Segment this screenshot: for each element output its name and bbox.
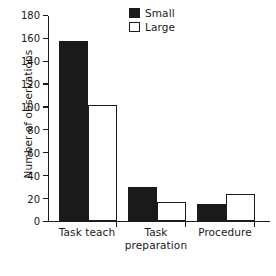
y-tick-20: 20 — [43, 198, 48, 199]
bar-task-teach-small — [59, 41, 88, 221]
y-tick-label-80: 80 — [27, 124, 40, 135]
y-tick-label-40: 40 — [27, 170, 40, 181]
x-axis-labels: Task teach Task preparation Procedure — [48, 226, 270, 272]
y-tick-label-180: 180 — [21, 10, 40, 21]
y-tick-100: 100 — [43, 106, 48, 107]
bars-container — [49, 16, 270, 221]
bar-procedure-large — [226, 194, 255, 220]
y-tick-label-0: 0 — [34, 216, 40, 227]
y-tick-label-140: 140 — [21, 56, 40, 67]
x-category-procedure-line1: Procedure — [180, 226, 270, 239]
y-tick-label-120: 120 — [21, 79, 40, 90]
plot-area: 0 20 40 60 80 100 120 140 160 180 — [48, 16, 270, 222]
y-tick-180: 180 — [43, 15, 48, 16]
bar-procedure-small — [197, 204, 226, 220]
bar-chart-figure: Small Large Number of observations 0 20 … — [0, 0, 276, 276]
y-tick-160: 160 — [43, 38, 48, 39]
bar-task-teach-large — [88, 105, 117, 220]
y-tick-140: 140 — [43, 61, 48, 62]
y-tick-60: 60 — [43, 152, 48, 153]
y-tick-0: 0 — [43, 221, 48, 222]
y-tick-label-100: 100 — [21, 101, 40, 112]
bar-task-preparation-small — [128, 187, 157, 221]
y-tick-120: 120 — [43, 83, 48, 84]
x-axis-line — [48, 221, 270, 222]
y-tick-label-20: 20 — [27, 193, 40, 204]
y-tick-label-160: 160 — [21, 33, 40, 44]
y-tick-label-60: 60 — [27, 147, 40, 158]
x-category-procedure: Procedure — [180, 226, 270, 239]
x-category-task-preparation-line2: preparation — [111, 239, 201, 252]
bar-task-preparation-large — [157, 202, 186, 220]
y-tick-40: 40 — [43, 175, 48, 176]
y-tick-80: 80 — [43, 129, 48, 130]
